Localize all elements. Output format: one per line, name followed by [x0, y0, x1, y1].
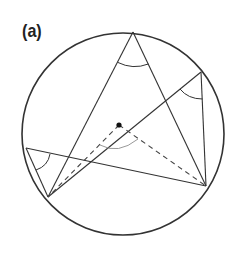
circle-theorem-diagram	[0, 0, 235, 256]
center-point	[116, 122, 121, 127]
chord-right-upper-left-lower	[48, 72, 201, 197]
chord-right-upper-right-lower	[201, 72, 206, 186]
inscribed-angle-right-arc	[180, 89, 203, 99]
circumcircle	[22, 33, 224, 235]
chord-top-right-lower	[133, 32, 206, 186]
central-angle-arc	[100, 139, 138, 149]
angle-arcs	[36, 62, 203, 170]
radius-to-left-lower	[48, 125, 119, 197]
inscribed-angle-top-arc	[118, 62, 149, 66]
inscribed-angle-left-arc	[36, 154, 50, 170]
solid-chords	[26, 32, 206, 197]
chord-top-left-lower	[48, 32, 133, 197]
